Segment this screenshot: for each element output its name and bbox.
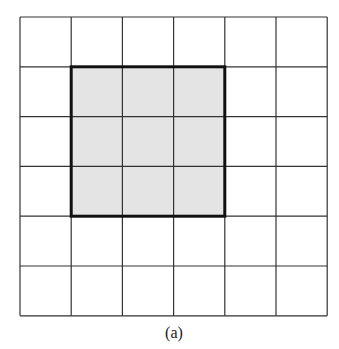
figure-caption: (a)	[0, 324, 339, 342]
grid-lines	[20, 17, 327, 316]
grid-diagram	[0, 0, 339, 349]
highlighted-region	[71, 67, 225, 216]
